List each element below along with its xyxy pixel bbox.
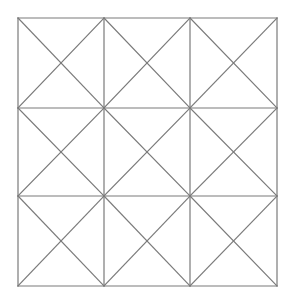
diagram-lines — [18, 18, 277, 286]
grid-diagonal-diagram — [0, 0, 297, 303]
